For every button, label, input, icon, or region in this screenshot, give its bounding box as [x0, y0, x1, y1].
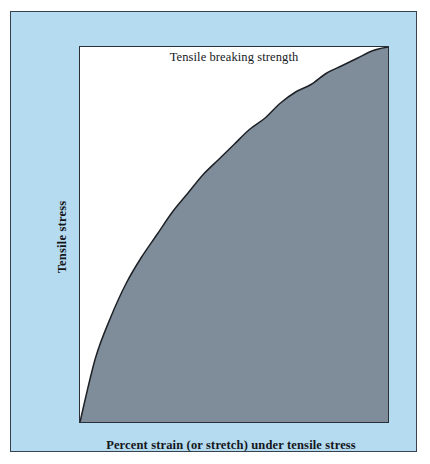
figure-root: Tensile breaking strength Tensile stress… — [0, 0, 430, 464]
stress-strain-chart — [80, 47, 388, 422]
figure-panel: Tensile breaking strength Tensile stress… — [10, 11, 417, 452]
x-axis-label: Percent strain (or stretch) under tensil… — [41, 438, 421, 453]
chart-title: Tensile breaking strength — [79, 49, 389, 65]
y-axis-label: Tensile stress — [55, 137, 70, 337]
plot-area — [79, 46, 389, 423]
tensile-curve-area — [80, 47, 388, 422]
